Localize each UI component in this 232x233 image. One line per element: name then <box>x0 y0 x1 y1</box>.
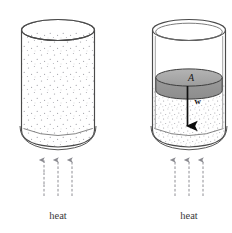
piston-area-label: A <box>187 72 195 83</box>
thermodynamics-figure: heat A <box>0 0 232 233</box>
caption-right: heat <box>180 210 198 221</box>
figure-canvas: heat A <box>0 0 232 233</box>
piston-disk: A <box>156 69 222 99</box>
weight-label: w <box>195 96 202 106</box>
caption-left: heat <box>49 210 67 221</box>
